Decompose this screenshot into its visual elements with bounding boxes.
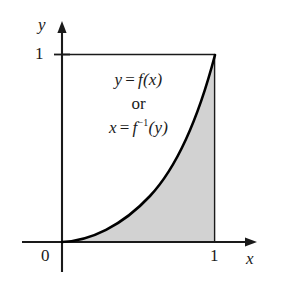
annotation-y-symbol: y <box>115 70 123 89</box>
figure-container: y 1 0 1 x y=f(x) or x=f−1(y) <box>0 0 281 294</box>
annotation-x-symbol: x <box>109 118 117 137</box>
function-annotation: y=f(x) or x=f−1(y) <box>62 68 215 140</box>
x-axis-arrowhead <box>245 237 257 246</box>
y-axis-arrowhead <box>57 21 66 33</box>
annotation-line-x-equals-f-inverse-of-y: x=f−1(y) <box>62 116 215 140</box>
annotation-line-or: or <box>62 92 215 116</box>
annotation-inverse-exponent: −1 <box>137 118 148 129</box>
y-axis-label: y <box>38 15 46 35</box>
x-tick-label-1: 1 <box>210 246 219 266</box>
annotation-equals-2: = <box>120 118 130 137</box>
annotation-line-y-equals-f-of-x: y=f(x) <box>62 68 215 92</box>
x-axis-label: x <box>246 249 254 269</box>
y-tick-label-1: 1 <box>35 44 44 64</box>
annotation-argument-y: (y) <box>149 118 168 137</box>
annotation-argument-x: (x) <box>143 70 162 89</box>
annotation-equals-1: = <box>125 70 135 89</box>
origin-label: 0 <box>41 246 50 266</box>
